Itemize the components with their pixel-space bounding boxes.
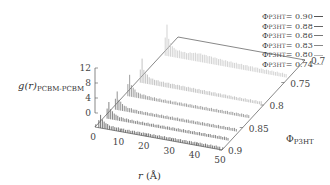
z-axis-label: ΦP3HT — [286, 133, 314, 146]
legend-swatch — [314, 45, 323, 46]
x-tick-label: 20 — [138, 141, 150, 151]
legend-swatch — [314, 16, 323, 17]
legend-item: ΦP3HT = 0.86 — [262, 31, 323, 41]
x-tick-label: 0 — [90, 132, 96, 142]
x-axis-label: r (Å) — [138, 170, 161, 181]
x-tick — [120, 129, 121, 132]
series-0.88 — [107, 102, 228, 141]
legend-swatch — [314, 64, 323, 65]
y-axis-label: g(r)PCBM-PCBM — [18, 80, 84, 93]
x-tick-label: 50 — [214, 155, 226, 165]
legend-item: ΦP3HT = 0.74 — [262, 60, 323, 70]
legend-item: ΦP3HT = 0.83 — [262, 41, 323, 51]
x-tick-label: 10 — [113, 137, 125, 147]
legend: ΦP3HT = 0.90 ΦP3HT = 0.88 ΦP3HT = 0.86 Φ… — [262, 12, 323, 70]
legend-swatch — [314, 35, 323, 36]
x-tick-label: 40 — [189, 150, 201, 160]
z-tick-label: 0.85 — [249, 124, 269, 134]
x-tick-label: 30 — [163, 146, 175, 156]
z-tick-label: 0.8 — [270, 101, 285, 111]
y-tick-label: 0 — [85, 108, 91, 118]
y-tick-label: 8 — [85, 78, 91, 88]
legend-item: ΦP3HT = 0.88 — [262, 22, 323, 32]
legend-swatch — [314, 26, 323, 27]
legend-item: ΦP3HT = 0.90 — [262, 12, 323, 22]
legend-swatch — [314, 55, 323, 56]
y-tick-label: 12 — [80, 63, 91, 73]
y-tick-label: 4 — [85, 93, 91, 103]
z-tick-label: 0.75 — [290, 79, 310, 89]
legend-item: ΦP3HT = 0.80 — [262, 50, 323, 60]
z-tick-label: 0.9 — [228, 146, 243, 156]
